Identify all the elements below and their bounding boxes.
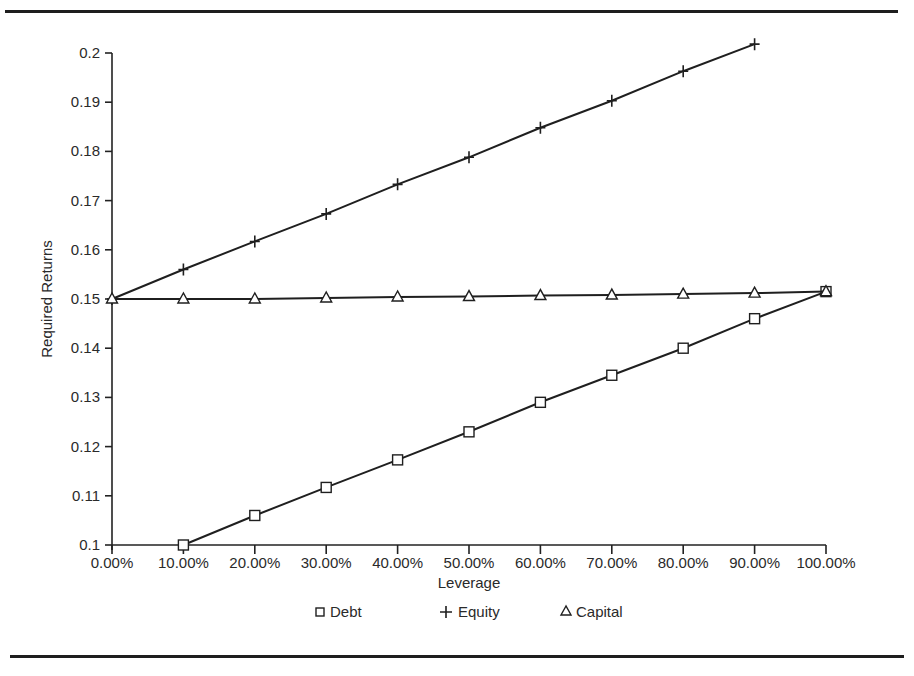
square-legend-icon bbox=[316, 608, 324, 616]
y-tick-label: 0.13 bbox=[71, 388, 100, 405]
plus-marker-icon bbox=[678, 65, 688, 77]
square-marker-icon bbox=[607, 370, 617, 380]
x-tick-label: 20.00% bbox=[229, 554, 280, 571]
square-marker-icon bbox=[250, 510, 260, 520]
x-tick-label: 10.00% bbox=[158, 554, 209, 571]
square-marker-icon bbox=[750, 314, 760, 324]
y-tick-label: 0.2 bbox=[79, 44, 100, 61]
square-marker-icon bbox=[464, 427, 474, 437]
square-marker-icon bbox=[321, 482, 331, 492]
series-equity bbox=[107, 38, 760, 305]
x-tick-label: 30.00% bbox=[301, 554, 352, 571]
legend-label: Capital bbox=[576, 603, 623, 620]
y-tick-label: 0.11 bbox=[72, 487, 100, 504]
legend-item-equity: Equity bbox=[440, 603, 500, 620]
series-line bbox=[112, 44, 755, 299]
y-tick-label: 0.17 bbox=[71, 192, 100, 209]
y-tick-label: 0.1 bbox=[79, 536, 100, 553]
plus-marker-icon bbox=[178, 263, 188, 275]
x-tick-label: 50.00% bbox=[444, 554, 495, 571]
y-tick-label: 0.15 bbox=[71, 290, 100, 307]
x-tick-label: 100.00% bbox=[796, 554, 855, 571]
series-group bbox=[107, 38, 832, 550]
plus-marker-icon bbox=[750, 38, 760, 50]
y-axis-ticks: 0.10.110.120.130.140.150.160.170.180.190… bbox=[71, 44, 112, 553]
legend-label: Debt bbox=[330, 603, 363, 620]
y-axis-title: Required Returns bbox=[38, 240, 55, 358]
x-tick-label: 90.00% bbox=[729, 554, 780, 571]
axes bbox=[112, 53, 826, 550]
x-tick-label: 80.00% bbox=[658, 554, 709, 571]
square-marker-icon bbox=[178, 540, 188, 550]
x-tick-label: 70.00% bbox=[586, 554, 637, 571]
series-line bbox=[183, 292, 826, 545]
plus-marker-icon bbox=[393, 178, 403, 190]
y-tick-label: 0.18 bbox=[71, 142, 100, 159]
series-capital bbox=[107, 286, 832, 303]
plus-marker-icon bbox=[607, 95, 617, 107]
plus-marker-icon bbox=[321, 208, 331, 220]
x-axis-ticks: 0.00%10.00%20.00%30.00%40.00%50.00%60.00… bbox=[91, 545, 856, 571]
y-tick-label: 0.14 bbox=[71, 339, 100, 356]
y-tick-label: 0.16 bbox=[71, 241, 100, 258]
x-tick-label: 40.00% bbox=[372, 554, 423, 571]
legend-label: Equity bbox=[458, 603, 500, 620]
x-tick-label: 60.00% bbox=[515, 554, 566, 571]
plus-marker-icon bbox=[464, 151, 474, 163]
series-debt bbox=[178, 287, 831, 550]
square-marker-icon bbox=[535, 397, 545, 407]
y-tick-label: 0.12 bbox=[71, 438, 100, 455]
plus-marker-icon bbox=[535, 122, 545, 134]
y-tick-label: 0.19 bbox=[71, 93, 100, 110]
legend: DebtEquityCapital bbox=[316, 603, 623, 620]
plus-legend-icon bbox=[440, 606, 452, 618]
triangle-marker-icon bbox=[535, 290, 546, 300]
legend-item-capital: Capital bbox=[561, 603, 623, 620]
plus-marker-icon bbox=[250, 235, 260, 247]
legend-item-debt: Debt bbox=[316, 603, 363, 620]
line-chart: 0.10.110.120.130.140.150.160.170.180.190… bbox=[0, 0, 914, 676]
triangle-legend-icon bbox=[561, 606, 571, 615]
square-marker-icon bbox=[678, 343, 688, 353]
square-marker-icon bbox=[393, 455, 403, 465]
x-tick-label: 0.00% bbox=[91, 554, 134, 571]
x-axis-title: Leverage bbox=[438, 574, 501, 591]
